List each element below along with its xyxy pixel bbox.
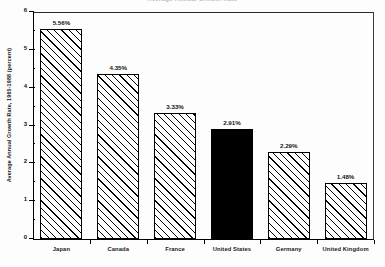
bar-value-label: 3.33% xyxy=(166,103,184,110)
bar-value-label: 1.48% xyxy=(337,173,355,180)
y-axis-minor-tick xyxy=(33,106,35,107)
plot-area: 0123456 5.56%4.35%3.33%2.91%2.29%1.48% xyxy=(33,12,374,240)
x-axis-category-japan: Japan xyxy=(53,246,70,252)
y-axis-minor-tick xyxy=(33,68,35,69)
plot-frame-top xyxy=(33,12,374,13)
x-axis-tick xyxy=(260,240,261,244)
y-axis-tick-label: 0 xyxy=(24,234,27,240)
y-axis-minor-tick xyxy=(33,219,35,220)
y-axis-minor-tick xyxy=(33,49,35,50)
y-axis-tick: 6 xyxy=(29,11,34,12)
y-axis-minor-tick xyxy=(33,143,35,144)
chart-figure: Average Annual Growth Rate Average Annua… xyxy=(0,0,385,267)
x-axis-category-germany: Germany xyxy=(276,246,302,252)
y-axis-minor-tick xyxy=(33,181,35,182)
x-axis-tick xyxy=(374,240,375,244)
x-axis-category-france: France xyxy=(165,246,185,252)
y-axis-minor-tick xyxy=(33,162,35,163)
x-axis-category-united-kingdom: United Kingdom xyxy=(322,246,368,252)
y-axis-tick-label: 1 xyxy=(24,196,27,202)
bar-japan[interactable]: 5.56% xyxy=(40,29,82,239)
y-axis-tick-label: 2 xyxy=(24,158,27,164)
y-axis-tick-label: 5 xyxy=(24,45,27,51)
y-axis-tick-label: 3 xyxy=(24,121,27,127)
y-axis-minor-tick xyxy=(33,87,35,88)
y-axis-minor-tick xyxy=(33,200,35,201)
bar-value-label: 4.35% xyxy=(109,64,127,71)
plot-frame-left xyxy=(33,12,34,240)
y-axis-tick: 0 xyxy=(29,238,34,239)
bar-united-kingdom[interactable]: 1.48% xyxy=(325,183,367,239)
bar-france[interactable]: 3.33% xyxy=(154,113,196,239)
y-axis-minor-tick xyxy=(33,30,35,31)
plot-frame-right xyxy=(373,12,374,240)
chart-title: Average Annual Growth Rate xyxy=(0,0,385,3)
x-axis-category-united-states: United States xyxy=(213,246,251,252)
x-axis-tick xyxy=(90,240,91,244)
y-axis-tick-label: 6 xyxy=(24,7,27,13)
x-axis-tick xyxy=(204,240,205,244)
bar-value-label: 2.91% xyxy=(223,119,241,126)
bar-value-label: 2.29% xyxy=(280,142,298,149)
x-axis-tick xyxy=(147,240,148,244)
y-axis-minor-tick xyxy=(33,125,35,126)
x-axis-tick xyxy=(317,240,318,244)
y-axis-label: Average Annual Growth Rate, 1965-1988 (p… xyxy=(6,10,12,220)
bar-germany[interactable]: 2.29% xyxy=(268,152,310,239)
bar-canada[interactable]: 4.35% xyxy=(97,74,139,239)
bar-value-label: 5.56% xyxy=(53,19,71,26)
y-axis-tick-label: 4 xyxy=(24,83,27,89)
x-axis-category-canada: Canada xyxy=(107,246,129,252)
bar-united-states[interactable]: 2.91% xyxy=(211,129,253,239)
